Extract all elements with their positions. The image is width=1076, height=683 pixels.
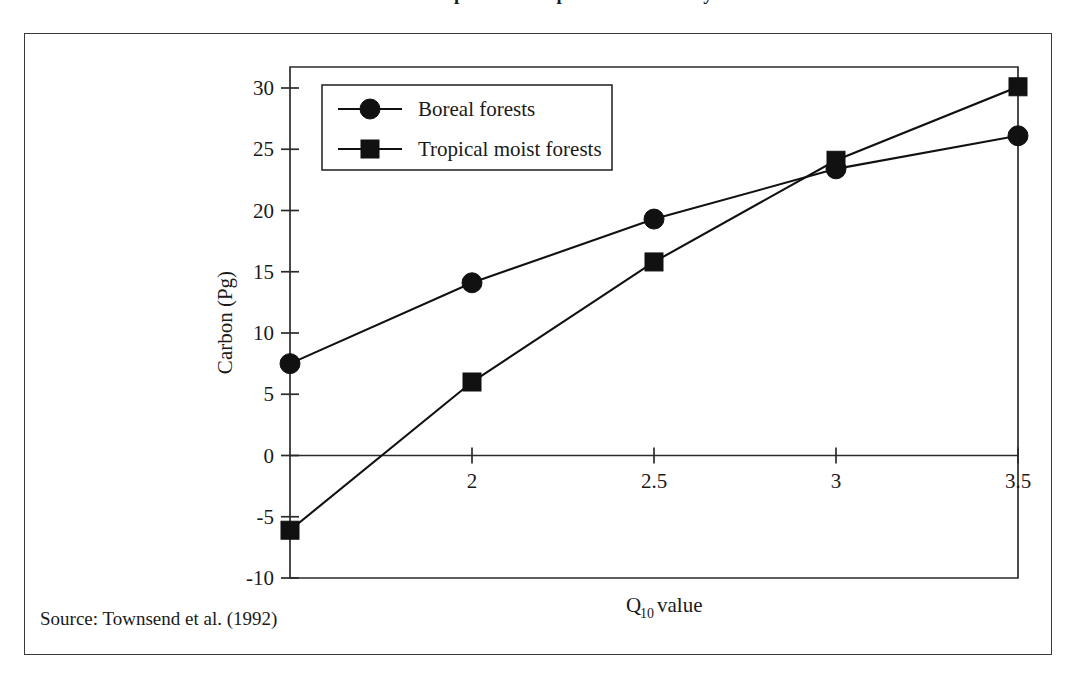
x-tick-label: 3.5 bbox=[1005, 469, 1031, 493]
data-point-circle bbox=[644, 209, 664, 229]
y-tick-label: 10 bbox=[253, 321, 274, 345]
legend-label-2: Tropical moist forests bbox=[418, 137, 602, 161]
x-axis-title: Q10 value bbox=[626, 593, 702, 621]
legend-marker-square bbox=[361, 140, 379, 158]
svg-text:Q: Q bbox=[626, 593, 641, 617]
data-point-square bbox=[281, 521, 299, 539]
y-tick-label: 20 bbox=[253, 199, 274, 223]
data-point-square bbox=[645, 253, 663, 271]
y-tick-label: -10 bbox=[246, 566, 274, 590]
y-tick-label: -5 bbox=[257, 505, 275, 529]
svg-text:10: 10 bbox=[640, 606, 654, 621]
chart-legend: Boreal forestsTropical moist forests bbox=[322, 85, 612, 170]
data-point-square bbox=[463, 373, 481, 391]
y-tick-label: 30 bbox=[253, 76, 274, 100]
legend-marker-circle bbox=[360, 99, 380, 119]
y-tick-label: 25 bbox=[253, 137, 274, 161]
x-tick-label: 2 bbox=[467, 469, 478, 493]
line-chart: -10-505101520253022.533.5 Carbon (Pg)Q10… bbox=[0, 0, 1076, 683]
y-tick-label: 15 bbox=[253, 260, 274, 284]
y-axis-title: Carbon (Pg) bbox=[213, 271, 237, 374]
data-point-circle bbox=[462, 273, 482, 293]
data-point-circle bbox=[280, 354, 300, 374]
data-point-square bbox=[827, 151, 845, 169]
data-point-square bbox=[1009, 78, 1027, 96]
y-tick-label: 5 bbox=[264, 382, 275, 406]
x-tick-label: 2.5 bbox=[641, 469, 667, 493]
y-tick-label: 0 bbox=[264, 444, 275, 468]
legend-label-1: Boreal forests bbox=[418, 97, 535, 121]
svg-text:value: value bbox=[657, 593, 702, 617]
data-point-circle bbox=[1008, 126, 1028, 146]
x-tick-label: 3 bbox=[831, 469, 842, 493]
axis-titles: Carbon (Pg)Q10 value bbox=[213, 271, 702, 621]
